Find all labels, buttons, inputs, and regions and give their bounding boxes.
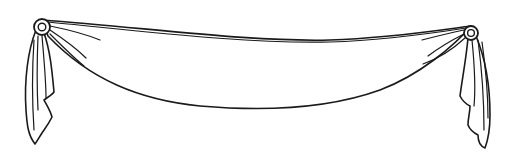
left-rosette: [34, 19, 50, 35]
swag-body: [42, 20, 471, 109]
right-tail: [460, 36, 490, 148]
right-rosette: [464, 26, 478, 40]
left-tail: [25, 30, 54, 144]
drape-drawing: [0, 0, 518, 164]
swag-drape-illustration: [0, 0, 518, 164]
